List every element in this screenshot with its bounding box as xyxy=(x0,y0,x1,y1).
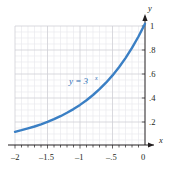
x-axis-arrow xyxy=(148,142,154,147)
y-tick-label-04: .4 xyxy=(149,93,156,103)
origin-label: 0 xyxy=(141,152,145,162)
equation-exponent: x xyxy=(94,75,98,81)
y-axis-arrow xyxy=(142,14,147,21)
x-axis-name: x xyxy=(158,135,163,145)
y-axis xyxy=(142,14,147,145)
x-tick-label-neg05: –.5 xyxy=(105,152,117,162)
x-tick-label-neg15: –1.5 xyxy=(38,152,54,162)
y-tick-label-1: 1 xyxy=(150,21,154,31)
y-axis-name: y xyxy=(147,3,152,13)
x-tick-label-neg2: –2 xyxy=(10,152,20,162)
y-tick-label-08: .8 xyxy=(149,45,155,55)
x-axis-ticks xyxy=(15,145,139,149)
y-tick-label-02: .2 xyxy=(149,117,155,127)
y-tick-label-06: .6 xyxy=(149,69,155,79)
equation-base: y = 3 xyxy=(68,76,89,86)
graph-canvas: 1 .8 .6 .4 .2 –2 –1.5 –1 –.5 0 x y y = 3… xyxy=(0,0,171,169)
exponential-function-figure: 1 .8 .6 .4 .2 –2 –1.5 –1 –.5 0 x y y = 3… xyxy=(0,0,171,169)
x-tick-label-neg1: –1 xyxy=(74,152,84,162)
